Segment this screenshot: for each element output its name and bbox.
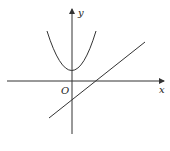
graph-canvas: y x O: [0, 0, 170, 151]
x-axis-label: x: [159, 84, 165, 95]
y-axis-label: y: [77, 7, 84, 18]
linear-function-line: [49, 42, 145, 118]
origin-label: O: [61, 85, 69, 96]
